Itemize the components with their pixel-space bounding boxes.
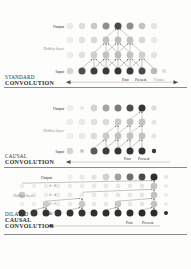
figure-canvas: Output Hidden layer Input Past Present F… <box>0 0 191 269</box>
causal-input-label: Input <box>22 149 64 154</box>
panel-causal-convolution: Output Hidden layer Input Past Present C… <box>0 88 191 168</box>
standard-output-label: Output <box>20 24 64 29</box>
dilated-convolution-caption: DILATED CAUSAL CONVOLUTION <box>5 212 54 229</box>
dilated-output-label: Output <box>0 175 52 180</box>
causal-hidden2-nodes <box>67 119 157 126</box>
standard-hidden1-nodes <box>67 52 157 59</box>
dilated-dilation-label-4: d = 4 <box>26 193 56 197</box>
standard-output-nodes <box>67 23 157 30</box>
causal-hidden-label: Hidden layer <box>14 128 64 133</box>
standard-timeline-past: Past <box>122 78 129 82</box>
standard-convolution-caption: STANDARD CONVOLUTION <box>5 75 54 86</box>
standard-input-label: Input <box>22 69 64 74</box>
causal-timeline-present: Present <box>138 157 149 161</box>
dilated-panel-divider <box>4 234 187 235</box>
standard-input-nodes <box>67 68 166 75</box>
standard-timeline-future: Future <box>154 78 164 82</box>
standard-timeline-present: Present <box>135 78 146 82</box>
standard-hidden2-nodes <box>67 37 157 44</box>
dilated-timeline-past: Past <box>126 221 133 225</box>
causal-output-label: Output <box>20 106 64 111</box>
panel-dilated-causal-convolution: Output Hidden layer Input d = 8 d = 4 d … <box>0 168 191 269</box>
causal-timeline-past: Past <box>124 157 131 161</box>
dilated-caption-line3: CONVOLUTION <box>5 223 54 229</box>
standard-caption-line2: CONVOLUTION <box>5 80 54 86</box>
standard-hidden-label: Hidden layer <box>14 46 64 51</box>
causal-caption-line2: CONVOLUTION <box>5 159 54 165</box>
dilated-dilation-label-8: d = 8 <box>26 184 56 188</box>
causal-input-nodes <box>67 148 157 155</box>
dilated-dilation-label-2: d = 2 <box>26 202 56 206</box>
dilated-timeline-present: Present <box>142 221 153 225</box>
dilated-output-nodes <box>67 174 168 181</box>
panel-standard-convolution: Output Hidden layer Input Past Present F… <box>0 0 191 88</box>
causal-hidden1-nodes <box>67 133 157 140</box>
causal-convolution-caption: CAUSAL CONVOLUTION <box>5 154 54 165</box>
causal-output-nodes <box>67 105 157 112</box>
